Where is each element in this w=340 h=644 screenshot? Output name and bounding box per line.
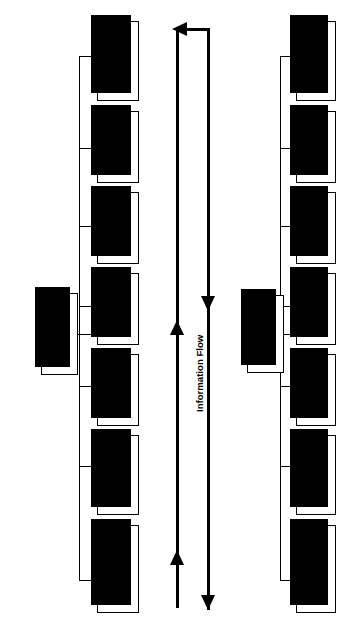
block-if-receiver: IF Receiver	[296, 273, 336, 345]
information-flow-label: Information Flow	[194, 335, 205, 412]
block-label: Transmitting Antenna	[107, 34, 128, 89]
flow-line-right	[207, 28, 210, 610]
receiver-group-label: Receiver	[260, 314, 271, 353]
block-label: Receiving Antenna	[305, 39, 326, 82]
block-baseband-processor-tx: Baseband Processor	[97, 525, 139, 613]
flow-arrowhead-up-bottom	[170, 550, 184, 565]
flow-arrowhead-up-middle	[170, 320, 184, 335]
receiver-group-box: Receiver	[247, 295, 284, 373]
block-modulator: Modulator	[97, 354, 139, 426]
block-label: IF Receiver	[305, 290, 326, 328]
block-label: Baseband Processor	[107, 547, 128, 592]
block-label: Code- Interleaver	[107, 452, 128, 498]
block-demodulator: Demodulator	[296, 354, 336, 426]
block-label: RF Transmitter	[107, 122, 128, 172]
flow-line-left	[176, 28, 179, 608]
block-label: Decoder- Deinterleaver	[305, 446, 326, 504]
diagram-canvas: Transmitter Transmitting Antenna RF Tran…	[0, 0, 340, 644]
transmitter-bracket-spine	[79, 56, 80, 581]
block-transmitting-antenna: Transmitting Antenna	[97, 21, 139, 101]
transmitter-group-label: Transmitter	[54, 308, 65, 359]
transmitter-group-box: Transmitter	[41, 293, 78, 375]
block-label: Demodulator	[311, 362, 322, 418]
flow-arrowhead-right-top	[172, 22, 187, 36]
block-label: Down- Converter	[305, 206, 326, 249]
block-up-converter: Up- Converter	[97, 192, 139, 264]
block-if-transmitter: IF Transmitter	[97, 273, 139, 345]
block-label: Modulator	[113, 368, 124, 412]
block-code-interleaver: Code- Interleaver	[97, 435, 139, 515]
flow-arrowhead-down-middle	[201, 296, 215, 311]
block-label: RF Receiver	[305, 128, 326, 166]
block-baseband-processor-rx: Baseband Processor	[296, 525, 336, 613]
block-rf-receiver: RF Receiver	[296, 111, 336, 183]
block-receiving-antenna: Receiving Antenna	[296, 21, 336, 101]
block-label: IF Transmitter	[107, 284, 128, 334]
flow-arrowhead-down-bottom	[201, 595, 215, 610]
block-label: Baseband Processor	[305, 547, 326, 592]
block-rf-transmitter: RF Transmitter	[97, 111, 139, 183]
block-decoder-deinterleaver: Decoder- Deinterleaver	[296, 435, 336, 515]
block-shadow	[91, 348, 131, 418]
block-shadow	[290, 348, 328, 418]
block-down-converter: Down- Converter	[296, 192, 336, 264]
block-label: Up- Converter	[107, 206, 128, 249]
